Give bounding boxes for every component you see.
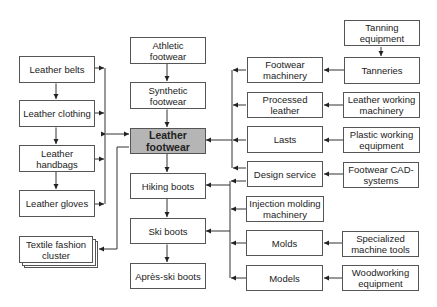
node-woodworking-equipment: Woodworking equipment <box>342 265 419 291</box>
node-label: Footwear machinery <box>250 59 320 81</box>
node-leather-clothing: Leather clothing <box>19 100 95 127</box>
node-label: Injection molding machinery <box>249 198 321 220</box>
node-footwear-machinery: Footwear machinery <box>247 57 323 83</box>
node-specialized-machine-tools: Specialized machine tools <box>342 231 419 257</box>
node-footwear-cad-systems: Footwear CAD-systems <box>343 162 419 188</box>
node-leather-footwear: Leather footwear <box>130 128 206 154</box>
node-models: Models <box>246 265 323 291</box>
node-label: Molds <box>272 238 297 249</box>
node-label: Après-ski boots <box>135 271 200 282</box>
node-injection-molding-machinery: Injection molding machinery <box>246 196 324 222</box>
node-molds: Molds <box>246 230 323 256</box>
node-synthetic-footwear: Synthetic footwear <box>130 82 206 109</box>
node-processed-leather: Processed leather <box>247 92 323 118</box>
node-label: Specialized machine tools <box>345 233 416 255</box>
node-leather-handbags: Leather handbags <box>19 145 95 172</box>
node-label: Leather footwear <box>133 129 203 153</box>
node-label: Design service <box>254 169 316 180</box>
node-label: Lasts <box>274 134 297 145</box>
node-label: Hiking boots <box>142 181 194 192</box>
node-hiking-boots: Hiking boots <box>130 173 206 199</box>
node-label: Footwear CAD-systems <box>346 164 416 186</box>
node-label: Tanning equipment <box>347 22 417 44</box>
node-leather-belts: Leather belts <box>19 56 95 83</box>
node-label: Leather handbags <box>22 148 92 170</box>
node-athletic-footwear: Athletic footwear <box>130 37 206 64</box>
node-tanning-equipment: Tanning equipment <box>344 20 420 46</box>
node-label: Leather clothing <box>23 108 91 119</box>
node-design-service: Design service <box>247 161 323 187</box>
node-apres-ski-boots: Après-ski boots <box>130 263 206 289</box>
node-label: Textile fashion cluster <box>22 239 90 261</box>
node-label: Processed leather <box>250 94 320 116</box>
node-ski-boots: Ski boots <box>130 218 206 244</box>
node-label: Athletic footwear <box>133 40 203 62</box>
node-leather-working-machinery: Leather working machinery <box>343 92 420 118</box>
node-lasts: Lasts <box>247 126 323 153</box>
node-label: Leather belts <box>30 64 85 75</box>
node-label: Tanneries <box>361 65 402 76</box>
node-tanneries: Tanneries <box>344 57 420 84</box>
node-textile-fashion-cluster: Textile fashion cluster <box>19 236 93 263</box>
node-label: Synthetic footwear <box>133 85 203 107</box>
node-label: Leather gloves <box>26 198 88 209</box>
node-label: Leather working machinery <box>346 94 417 116</box>
node-label: Ski boots <box>148 226 187 237</box>
node-label: Models <box>269 273 300 284</box>
node-leather-gloves: Leather gloves <box>19 190 95 217</box>
node-label: Woodworking equipment <box>345 267 416 289</box>
node-plastic-working-equipment: Plastic working equipment <box>343 127 420 153</box>
node-label: Plastic working equipment <box>346 129 417 151</box>
